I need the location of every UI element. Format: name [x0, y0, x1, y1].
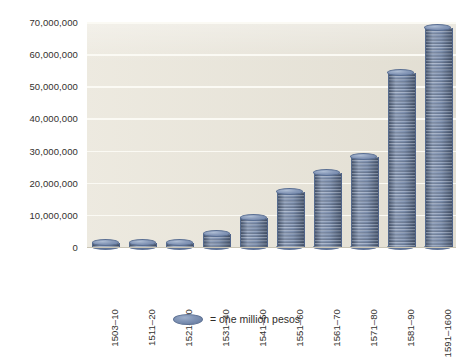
coin-top-face — [166, 239, 193, 246]
coin-stack — [277, 185, 303, 247]
coin-stack-body — [314, 173, 342, 247]
legend-label: = one million pesos — [210, 313, 300, 325]
x-axis: 1503–101511–201521–301531–401541–501551–… — [87, 249, 456, 311]
coin-top-face — [350, 153, 377, 160]
y-axis: 010,000,00020,000,00030,000,00040,000,00… — [0, 0, 83, 341]
x-axis-baseline — [87, 247, 456, 248]
bar — [161, 22, 198, 247]
coin-stack-body — [351, 157, 379, 247]
coin-stack — [129, 236, 155, 247]
coin-stack — [240, 211, 266, 247]
coin-disc-icon — [173, 314, 203, 325]
bar — [198, 22, 235, 247]
y-axis-tick-label: 40,000,000 — [29, 113, 78, 124]
coin-top-face — [129, 239, 156, 246]
bar — [382, 22, 419, 247]
y-axis-tick-label: 0 — [73, 242, 78, 253]
bar — [272, 22, 309, 247]
plot-area — [87, 22, 456, 247]
coin-stack — [92, 236, 118, 247]
coin-stack-body — [388, 73, 416, 247]
coin-stack-body — [277, 192, 305, 247]
coin-top-face — [240, 214, 267, 221]
y-axis-tick-label: 10,000,000 — [29, 209, 78, 220]
bar — [87, 22, 124, 247]
coin-top-face — [203, 230, 230, 237]
y-axis-tick-label: 50,000,000 — [29, 81, 78, 92]
y-axis-tick-label: 60,000,000 — [29, 49, 78, 60]
bar-series — [87, 22, 456, 247]
coin-top-face — [92, 239, 119, 246]
bar — [235, 22, 272, 247]
y-axis-tick-label: 20,000,000 — [29, 177, 78, 188]
coin-stack — [203, 227, 229, 247]
coin-stack-body — [240, 218, 268, 247]
coin-stack-body — [425, 28, 453, 247]
coin-stack — [166, 236, 192, 247]
bar — [419, 22, 456, 247]
coin-stack — [314, 166, 340, 247]
coin-stack — [388, 66, 414, 247]
y-axis-tick-label: 30,000,000 — [29, 145, 78, 156]
y-axis-tick-label: 70,000,000 — [29, 17, 78, 28]
coin-stack — [425, 21, 451, 247]
coin-stack — [351, 150, 377, 247]
chart-legend: = one million pesos — [0, 313, 473, 325]
bar — [308, 22, 345, 247]
bar — [345, 22, 382, 247]
bar — [124, 22, 161, 247]
